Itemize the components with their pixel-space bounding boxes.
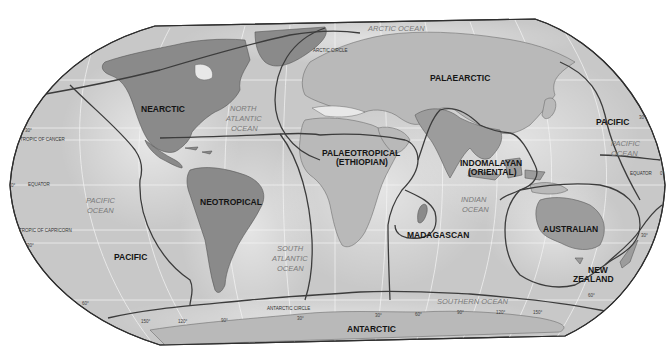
ocean-label-arctic: ARCTIC OCEAN — [367, 24, 425, 33]
lat-tick-0-east: 0° — [660, 171, 665, 176]
lon-tick: 30° — [375, 313, 382, 318]
lon-tick: 150° — [141, 319, 151, 324]
ocean-label-pacific-west-2: OCEAN — [87, 206, 114, 215]
antarctic-circle-label: ANTARCTIC CIRCLE — [267, 306, 310, 311]
ocean-label-south-atlantic-3: OCEAN — [277, 264, 304, 273]
ocean-label-south-atlantic-2: ATLANTIC — [271, 254, 308, 263]
realm-label-madagascan: MADAGASCAN — [407, 230, 469, 240]
lat-tick-30n-east: 30° — [639, 115, 646, 120]
ocean-label-pacific-east-1: PACIFIC — [611, 139, 641, 148]
realm-label-oriental: (ORIENTAL) — [468, 167, 517, 177]
ocean-label-north-atlantic-1: NORTH — [230, 104, 257, 113]
lon-tick: 90° — [457, 310, 464, 315]
ocean-label-southern: SOUTHERN OCEAN — [437, 297, 508, 306]
ocean-label-north-atlantic-2: ATLANTIC — [225, 114, 262, 123]
tropic-of-cancer-label: TROPIC OF CANCER — [20, 137, 66, 142]
lon-tick: 60° — [415, 312, 422, 317]
arctic-circle-label: ARCTIC CIRCLE — [313, 48, 348, 53]
ocean-label-pacific-west-1: PACIFIC — [86, 196, 116, 205]
realm-label-pacific-west: PACIFIC — [114, 252, 147, 262]
realm-label-zealand: ZEALAND — [573, 274, 614, 284]
realm-label-pacific-east: PACIFIC — [596, 117, 629, 127]
lon-tick: 120° — [178, 319, 188, 324]
realm-label-australian: AUSTRALIAN — [543, 224, 598, 234]
ocean-label-indian-1: INDIAN — [461, 195, 487, 204]
lon-tick: 120° — [496, 310, 506, 315]
lon-tick: 150° — [533, 310, 543, 315]
lat-tick-30s-west: 30° — [27, 243, 34, 248]
ocean-label-north-atlantic-3: OCEAN — [231, 124, 258, 133]
world-zoogeographic-map: NEARCTIC PALAEARCTIC NEOTROPICAL PALAEOT… — [0, 0, 671, 359]
ocean-label-indian-2: OCEAN — [462, 205, 489, 214]
realm-label-neotropical: NEOTROPICAL — [200, 197, 262, 207]
equator-label-east: EQUATOR — [630, 171, 653, 176]
lat-tick-0-west: 0° — [11, 183, 16, 188]
realm-label-palaearctic: PALAEARCTIC — [430, 73, 490, 83]
lon-tick: 30° — [297, 316, 304, 321]
lat-tick-30s-east: 30° — [641, 233, 648, 238]
ocean-label-south-atlantic-1: SOUTH — [277, 244, 304, 253]
ocean-label-pacific-east-2: OCEAN — [611, 149, 638, 158]
realm-label-antarctic: ANTARCTIC — [347, 324, 396, 334]
lat-tick-60s-east: 60° — [588, 293, 595, 298]
lon-tick: 90° — [221, 318, 228, 323]
realm-label-nearctic: NEARCTIC — [141, 104, 185, 114]
equator-label-west: EQUATOR — [28, 182, 51, 187]
lat-tick-30n-west: 30° — [25, 128, 32, 133]
tropic-of-capricorn-label: TROPIC OF CAPRICORN — [19, 228, 72, 233]
lat-tick-60s-west: 60° — [82, 301, 89, 306]
realm-label-ethiopian: (ETHIOPIAN) — [336, 157, 388, 167]
